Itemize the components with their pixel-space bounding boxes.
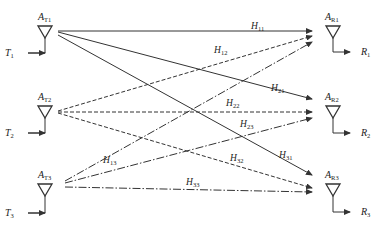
channels-from-t2 <box>58 36 312 188</box>
antenna-icon <box>326 26 340 38</box>
channel-h32 <box>58 113 312 188</box>
transmitter-2: AT2 T2 <box>5 91 52 139</box>
antenna-icon <box>38 184 52 196</box>
transmitter-3: AT3 T3 <box>5 169 52 219</box>
feed-line <box>28 118 45 133</box>
label-h13: H13 <box>102 155 116 166</box>
input-label-t1: T1 <box>5 47 14 59</box>
output-line <box>333 38 350 52</box>
receiver-1: AR1 R1 <box>324 11 370 58</box>
label-h32: H32 <box>229 153 243 164</box>
antenna-label-t2: AT2 <box>37 91 51 103</box>
mimo-diagram: AT1 T1 AT2 T2 AT3 T3 AR1 R1 AR2 R2 AR3 <box>0 0 382 230</box>
label-h22: H22 <box>225 98 239 109</box>
receiver-2: AR2 R2 <box>324 91 370 139</box>
label-h31: H31 <box>278 150 292 161</box>
antenna-label-t3: AT3 <box>37 169 51 181</box>
output-label-r2: R2 <box>360 127 370 139</box>
output-line <box>333 196 350 212</box>
feed-line <box>28 38 45 53</box>
antenna-icon <box>326 106 340 118</box>
feed-line <box>28 196 45 213</box>
output-line <box>333 118 350 133</box>
output-label-r3: R3 <box>360 206 370 218</box>
antenna-icon <box>326 184 340 196</box>
channel-h31 <box>58 35 312 175</box>
channel-h23 <box>65 118 312 183</box>
label-h23: H23 <box>239 119 253 130</box>
channel-labels: H11 H12 H13 H21 H22 H23 H31 H32 H33 <box>102 21 292 188</box>
antenna-icon <box>38 106 52 118</box>
output-label-r1: R1 <box>360 46 370 58</box>
antenna-label-r3: AR3 <box>324 169 339 181</box>
label-h33: H33 <box>185 177 199 188</box>
antenna-label-r2: AR2 <box>324 91 339 103</box>
receiver-3: AR3 R3 <box>324 169 370 218</box>
label-h11: H11 <box>250 21 264 32</box>
transmitter-1: AT1 T1 <box>5 11 52 59</box>
label-h12: H12 <box>213 45 227 56</box>
antenna-label-t1: AT1 <box>37 11 51 23</box>
channel-h12 <box>58 36 312 111</box>
input-label-t2: T2 <box>5 127 14 139</box>
channels-from-t3 <box>65 42 312 192</box>
antenna-label-r1: AR1 <box>324 11 339 23</box>
label-h21: H21 <box>270 83 284 94</box>
channel-h33 <box>65 187 312 192</box>
antenna-icon <box>38 26 52 38</box>
input-label-t3: T3 <box>5 207 14 219</box>
channels-from-t1 <box>58 31 312 175</box>
